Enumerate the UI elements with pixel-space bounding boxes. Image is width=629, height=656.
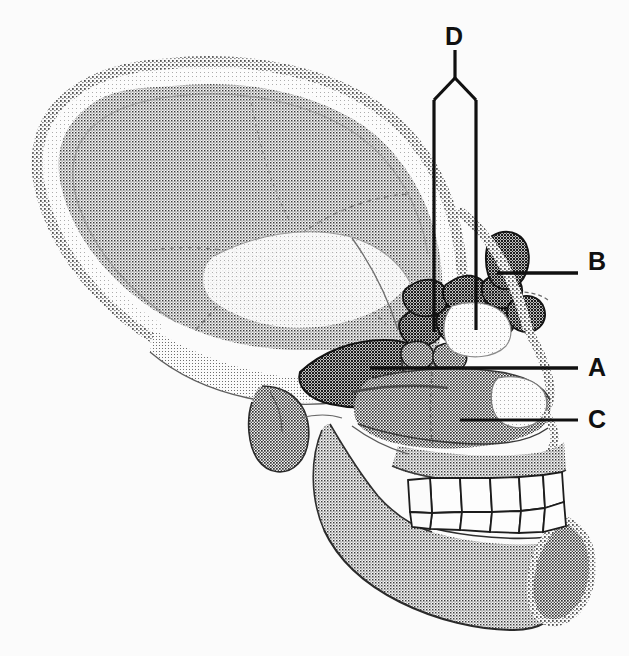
upper-teeth — [408, 472, 564, 513]
skull-illustration — [0, 0, 629, 656]
lower-tooth-6 — [410, 512, 432, 529]
upper-tooth-2 — [460, 478, 492, 512]
lower-tooth-3 — [490, 511, 521, 533]
lower-tooth-1 — [430, 512, 462, 530]
upper-tooth-4 — [519, 475, 545, 511]
ethmoid-cell-8 — [401, 341, 434, 369]
label-a: A — [588, 355, 606, 380]
label-d: D — [445, 24, 463, 49]
lower-tooth-4 — [519, 508, 545, 533]
lower-tooth-2 — [460, 512, 492, 532]
skull-sinus-figure: B A C D — [0, 0, 629, 656]
label-c: C — [588, 407, 606, 432]
upper-tooth-3 — [490, 477, 521, 512]
upper-tooth-6 — [408, 478, 432, 513]
upper-tooth-1 — [430, 478, 462, 513]
label-b: B — [588, 249, 606, 274]
